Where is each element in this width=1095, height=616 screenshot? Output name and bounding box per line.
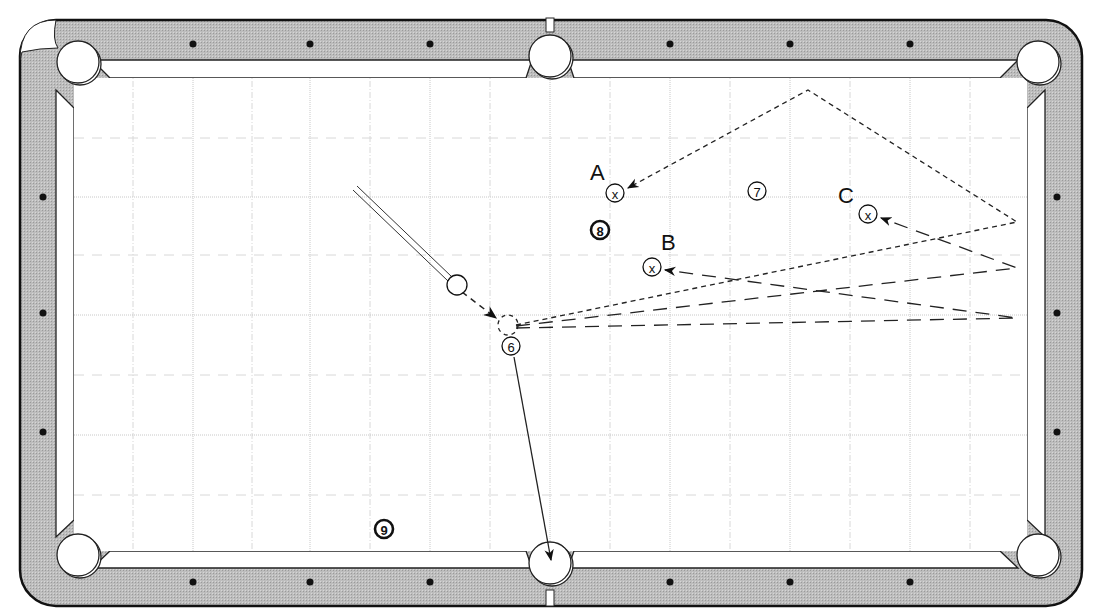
diamond-marker (190, 579, 197, 586)
diamond-marker (787, 41, 794, 48)
object-ball-9: 9 (375, 520, 393, 538)
ball-number: 9 (380, 523, 387, 538)
pocket-bottom-center (529, 542, 571, 584)
diamond-marker (1054, 194, 1061, 201)
diamond-marker (907, 41, 914, 48)
diamond-marker (1054, 429, 1061, 436)
pocket-top-left (57, 41, 99, 83)
x-mark-icon: x (612, 187, 619, 202)
pocket-top-right (1017, 41, 1059, 83)
diamond-marker (40, 310, 47, 317)
pocket-top-center (529, 35, 571, 77)
cue-ball (447, 275, 467, 295)
diamond-marker (40, 429, 47, 436)
diamond-marker (1054, 310, 1061, 317)
pocket-bottom-left (57, 534, 99, 576)
ball-number: 8 (596, 224, 603, 239)
x-mark-icon: x (649, 261, 656, 276)
object-ball-6: 6 (502, 337, 520, 355)
target-label: C (838, 183, 854, 208)
target-label: A (590, 160, 605, 185)
diamond-marker (427, 41, 434, 48)
diamond-marker (40, 194, 47, 201)
x-mark-icon: x (865, 208, 872, 223)
object-ball-7: 7 (748, 182, 766, 200)
diamond-marker (307, 41, 314, 48)
object-ball-8: 8 (591, 221, 609, 239)
diamond-marker (427, 579, 434, 586)
target-label: B (661, 230, 676, 255)
pool-table-diagram: 6789 xAxBxC (0, 0, 1095, 616)
pocket-bottom-right (1017, 534, 1059, 576)
ball-number: 7 (753, 185, 760, 200)
diamond-marker (787, 579, 794, 586)
diamond-marker (190, 41, 197, 48)
diamond-marker (667, 41, 674, 48)
diamond-marker (667, 579, 674, 586)
ball-number: 6 (507, 340, 514, 355)
diamond-marker (307, 579, 314, 586)
diamond-marker (907, 579, 914, 586)
